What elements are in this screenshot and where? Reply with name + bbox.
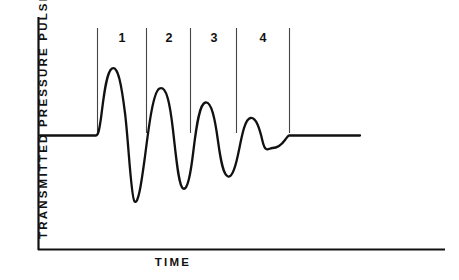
waveform-curve (40, 68, 360, 202)
interval-label-1: 1 (112, 31, 132, 45)
interval-label-3: 3 (204, 31, 224, 45)
chart-figure: TRANSMITTED PRESSURE PULSE TIME 1 2 3 4 (0, 0, 459, 280)
interval-label-4: 4 (253, 31, 273, 45)
interval-label-2: 2 (159, 31, 179, 45)
pressure-pulse-plot (0, 0, 459, 280)
y-axis-label: TRANSMITTED PRESSURE PULSE (37, 29, 49, 239)
x-axis-label: TIME (108, 256, 238, 268)
